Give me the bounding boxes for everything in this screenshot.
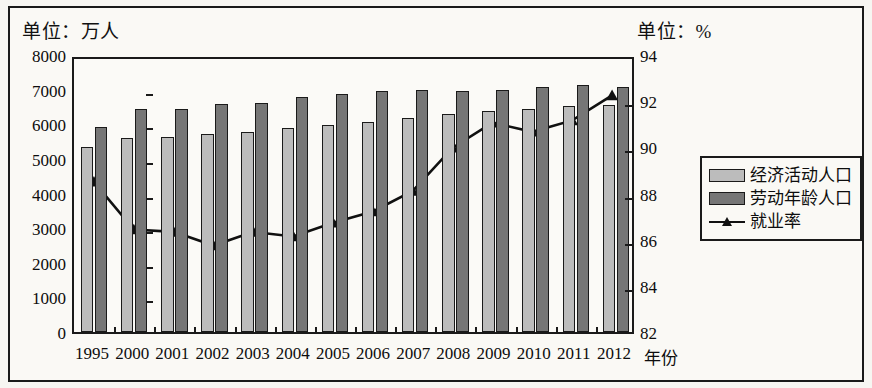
legend-item[interactable]: 劳动年龄人口 xyxy=(709,187,852,210)
x-axis-tick xyxy=(596,327,598,333)
bar-economically-active-population xyxy=(282,128,295,332)
x-axis-tick-label: 2001 xyxy=(155,344,189,364)
x-axis-tick-label: 2000 xyxy=(115,344,149,364)
left-axis-tick xyxy=(146,198,153,200)
bar-economically-active-population xyxy=(81,147,94,332)
left-axis-tick-label: 5000 xyxy=(32,152,66,169)
x-axis-tick xyxy=(275,327,277,333)
legend-swatch-icon xyxy=(709,169,745,182)
bar-economically-active-population xyxy=(442,114,455,332)
bar-working-age-population xyxy=(496,90,509,332)
bar-working-age-population xyxy=(376,91,389,332)
bar-economically-active-population xyxy=(201,134,214,332)
x-axis-tick-label: 2004 xyxy=(276,344,310,364)
left-axis-tick xyxy=(146,267,153,269)
x-axis-tick xyxy=(154,327,156,333)
bar-economically-active-population xyxy=(522,109,535,332)
right-axis-tick-label: 90 xyxy=(640,140,657,157)
right-axis-tick-label: 84 xyxy=(640,279,657,296)
left-axis-tick-label: 8000 xyxy=(32,48,66,65)
legend-swatch-icon xyxy=(709,192,745,205)
x-axis-tick-label: 2002 xyxy=(196,344,230,364)
right-axis-tick-label: 92 xyxy=(640,94,657,111)
bar-economically-active-population xyxy=(362,122,375,332)
right-axis-tick-label: 94 xyxy=(640,48,657,65)
left-axis-tick-label: 0 xyxy=(58,325,67,342)
left-axis-tick-labels: 010002000300040005000600070008000 xyxy=(8,57,66,334)
left-axis-tick xyxy=(146,128,153,130)
x-axis-tick xyxy=(114,327,116,333)
x-axis-tick xyxy=(435,327,437,333)
bar-economically-active-population xyxy=(241,132,254,332)
right-axis-unit-label: 单位：% xyxy=(637,16,712,43)
x-axis-tick xyxy=(556,327,558,333)
right-axis-tick-label: 88 xyxy=(640,187,657,204)
right-axis-tick-label: 86 xyxy=(640,233,657,250)
x-axis-tick xyxy=(475,327,477,333)
left-axis-tick-label: 1000 xyxy=(32,290,66,307)
left-axis-tick xyxy=(146,163,153,165)
x-axis-tick-label: 2012 xyxy=(597,344,631,364)
bar-working-age-population xyxy=(577,85,590,332)
chart-figure: 单位：万人 单位：% 01000200030004000500060007000… xyxy=(0,0,872,388)
x-axis-tick-label: 2011 xyxy=(557,344,590,364)
bar-working-age-population xyxy=(135,109,148,332)
bar-working-age-population xyxy=(336,94,349,332)
legend-item[interactable]: 就业率 xyxy=(709,210,852,233)
left-axis-tick-label: 7000 xyxy=(32,83,66,100)
x-axis-tick xyxy=(355,327,357,333)
x-axis-tick-label: 2007 xyxy=(396,344,430,364)
left-axis-tick xyxy=(146,232,153,234)
left-axis-tick xyxy=(146,301,153,303)
chart-legend: 经济活动人口劳动年龄人口就业率 xyxy=(700,156,862,241)
x-axis-tick-label: 2009 xyxy=(477,344,511,364)
left-axis-tick-label: 6000 xyxy=(32,117,66,134)
bar-working-age-population xyxy=(456,91,469,332)
legend-item-label: 就业率 xyxy=(750,213,801,230)
x-axis-tick xyxy=(516,327,518,333)
x-axis-tick-label: 2010 xyxy=(517,344,551,364)
left-axis-tick-label: 2000 xyxy=(32,256,66,273)
left-axis-tick xyxy=(146,94,153,96)
bar-working-age-population xyxy=(296,97,309,332)
plot-area xyxy=(72,57,634,334)
bar-economically-active-population xyxy=(121,138,134,332)
right-axis-tick xyxy=(625,105,632,107)
bar-working-age-population xyxy=(175,109,188,332)
x-axis-tick-label: 2006 xyxy=(356,344,390,364)
x-axis-tick xyxy=(235,327,237,333)
bar-economically-active-population xyxy=(482,111,495,332)
left-axis-unit-label: 单位：万人 xyxy=(22,16,120,43)
bar-working-age-population xyxy=(255,103,268,332)
x-axis-tick-label: 2005 xyxy=(316,344,350,364)
right-axis-tick-label: 82 xyxy=(640,325,657,342)
bar-economically-active-population xyxy=(402,118,415,332)
bar-economically-active-population xyxy=(563,106,576,332)
legend-item-label: 劳动年龄人口 xyxy=(750,190,852,207)
x-axis-tick-label: 2003 xyxy=(236,344,270,364)
bar-working-age-population xyxy=(95,127,108,332)
bar-working-age-population xyxy=(536,87,549,332)
legend-item-label: 经济活动人口 xyxy=(750,167,852,184)
bar-economically-active-population xyxy=(322,125,335,332)
x-axis-tick xyxy=(315,327,317,333)
bar-working-age-population xyxy=(416,90,429,332)
left-axis-tick-label: 4000 xyxy=(32,187,66,204)
right-axis-tick xyxy=(625,198,632,200)
x-axis-tick-label: 2008 xyxy=(436,344,470,364)
right-axis-tick xyxy=(625,244,632,246)
bar-working-age-population xyxy=(617,87,630,332)
bar-economically-active-population xyxy=(161,137,174,332)
x-axis-tick-label: 1995 xyxy=(75,344,109,364)
left-axis-tick-label: 3000 xyxy=(32,221,66,238)
legend-item[interactable]: 经济活动人口 xyxy=(709,164,852,187)
right-axis-tick-labels: 82848688909294 xyxy=(640,57,680,334)
x-axis-tick xyxy=(194,327,196,333)
right-axis-tick xyxy=(625,290,632,292)
x-axis-tick xyxy=(395,327,397,333)
bar-economically-active-population xyxy=(603,105,616,332)
right-axis-tick xyxy=(625,151,632,153)
legend-line-marker-icon xyxy=(709,215,745,228)
bar-working-age-population xyxy=(215,104,228,332)
x-axis-title: 年份 xyxy=(644,344,678,369)
